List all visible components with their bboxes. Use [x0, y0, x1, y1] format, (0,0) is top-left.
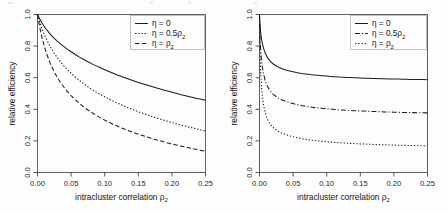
y-axis-ticks [256, 15, 260, 173]
legend-label-eta-0: η = 0 [372, 19, 391, 28]
x-axis-tick-labels: 0.00 0.05 0.10 0.15 0.20 0.25 [252, 179, 435, 188]
x-tick-label: 0.05 [286, 179, 301, 188]
y-tick-label: 0.6 [245, 72, 254, 83]
y-tick-label: 1.0 [23, 9, 32, 20]
y-tick-label: 0.8 [23, 41, 32, 52]
legend-item-eta-rho2: η = ρ2 [135, 39, 174, 49]
legend-item-eta-0: η = 0 [355, 19, 391, 28]
x-axis-ticks [260, 173, 428, 177]
y-tick-label: 0.4 [23, 104, 32, 115]
x-tick-label: 0.25 [420, 179, 435, 188]
x-axis-title-subscript: 2 [387, 197, 390, 203]
legend-label-eta-rho2: η = ρ2 [372, 39, 394, 49]
x-tick-label: 0.00 [252, 179, 267, 188]
chart-panel-right: 1.0 0.8 0.6 0.4 0.2 0.0 relative efficie… [224, 0, 448, 213]
y-axis-tick-labels: 1.0 0.8 0.6 0.4 0.2 0.0 [23, 9, 32, 178]
legend-left: η = 0 η = 0.5ρ2 η = ρ2 [131, 16, 205, 50]
legend-item-eta-half-rho2: η = 0.5ρ2 [355, 29, 405, 39]
x-tick-label: 0.10 [319, 179, 334, 188]
y-tick-label: 0.4 [245, 104, 254, 115]
x-axis-ticks [38, 173, 206, 177]
y-tick-label: 0.0 [245, 167, 254, 178]
x-tick-label: 0.05 [64, 179, 79, 188]
x-tick-label: 0.10 [97, 179, 112, 188]
y-tick-label: 1.0 [245, 9, 254, 20]
x-axis-tick-labels: 0.00 0.05 0.10 0.15 0.20 0.25 [30, 179, 213, 188]
x-axis-title-prefix: intracluster correlation [297, 192, 382, 202]
x-axis-title: intracluster correlation ρ2 [75, 192, 168, 203]
chart-svg-left: 1.0 0.8 0.6 0.4 0.2 0.0 relative efficie… [0, 0, 224, 213]
curve-eta-half-rho2 [260, 15, 428, 113]
y-tick-label: 0.6 [23, 72, 32, 83]
x-tick-label: 0.20 [387, 179, 402, 188]
legend-right: η = 0 η = 0.5ρ2 η = ρ2 [351, 16, 427, 50]
legend-label-eta-half-rho2: η = 0.5ρ2 [152, 29, 185, 39]
x-tick-label: 0.15 [353, 179, 368, 188]
x-tick-label: 0.25 [198, 179, 213, 188]
legend-item-eta-0: η = 0 [135, 19, 171, 28]
x-tick-label: 0.20 [165, 179, 180, 188]
y-tick-label: 0.8 [245, 41, 254, 52]
y-tick-label: 0.2 [23, 136, 32, 147]
y-axis-tick-labels: 1.0 0.8 0.6 0.4 0.2 0.0 [245, 9, 254, 178]
legend-label-eta-half-rho2: η = 0.5ρ2 [372, 29, 405, 39]
x-tick-label: 0.15 [131, 179, 146, 188]
x-tick-label: 0.00 [30, 179, 45, 188]
x-axis-title-prefix: intracluster correlation [75, 192, 160, 202]
curve-eta-0 [260, 15, 428, 80]
chart-panel-left: 1.0 0.8 0.6 0.4 0.2 0.0 relative efficie… [0, 0, 224, 213]
x-axis-title: intracluster correlation ρ2 [297, 192, 390, 203]
y-axis-title: relative efficiency [7, 61, 17, 126]
figure-container: 1.0 0.8 0.6 0.4 0.2 0.0 relative efficie… [0, 0, 448, 213]
curve-eta-0 [38, 15, 206, 101]
chart-svg-right: 1.0 0.8 0.6 0.4 0.2 0.0 relative efficie… [224, 0, 448, 213]
x-axis-title-subscript: 2 [165, 197, 168, 203]
legend-item-eta-half-rho2: η = 0.5ρ2 [135, 29, 185, 39]
y-tick-label: 0.2 [245, 136, 254, 147]
y-tick-label: 0.0 [23, 167, 32, 178]
legend-label-eta-0: η = 0 [152, 19, 171, 28]
y-axis-title: relative efficiency [229, 61, 239, 126]
legend-label-eta-rho2: η = ρ2 [152, 39, 174, 49]
y-axis-ticks [34, 15, 38, 173]
legend-item-eta-rho2: η = ρ2 [355, 39, 394, 49]
